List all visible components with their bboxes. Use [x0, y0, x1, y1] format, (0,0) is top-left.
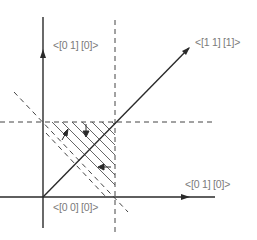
- y-axis-arrow-icon: [40, 49, 46, 58]
- origin-label: <[0 0] [0]>: [53, 202, 98, 213]
- x-axis-label: <[0 1] [0]>: [185, 179, 230, 190]
- dashed-diagonal-outer: [14, 92, 128, 212]
- x-axis-arrow-icon: [181, 194, 190, 200]
- diagonal-label: <[1 1] [1]>: [195, 37, 240, 48]
- arrow-up-right-icon: [63, 129, 68, 136]
- dashed-lines: [0, 20, 213, 236]
- y-axis-label: <[0 1] [0]>: [53, 40, 98, 51]
